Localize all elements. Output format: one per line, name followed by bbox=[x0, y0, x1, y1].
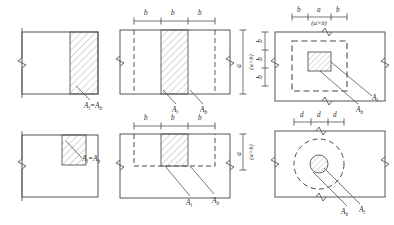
label-al-ab-top-left: Al=Ab bbox=[83, 101, 102, 111]
dimension-right-bottom-middle: a (a>b) bbox=[235, 134, 255, 170]
dim-b-left: b bbox=[297, 6, 301, 14]
dim-b-3: b bbox=[198, 9, 202, 17]
dim-a-value: a bbox=[235, 64, 243, 68]
dim-condition-top-right: (a>b) bbox=[311, 19, 326, 27]
dimension-row-top-right: b a b (a>b) bbox=[292, 6, 347, 27]
dim-b-v2: b bbox=[256, 57, 264, 61]
dim-b-1: b bbox=[144, 9, 148, 17]
dim-b-v1: b bbox=[256, 39, 264, 43]
dimension-row-bottom-right: d d d bbox=[294, 111, 344, 126]
label-al-bottom-middle: Al bbox=[185, 198, 193, 208]
dim-d-1: d bbox=[300, 111, 304, 119]
dimension-row-top-middle: b b b bbox=[134, 9, 215, 25]
dim-b-1: b bbox=[144, 114, 148, 122]
hatched-circle bbox=[310, 155, 328, 173]
panel-top-middle: b b b a (a>b) Al Ab bbox=[116, 9, 255, 115]
diagram-svg: Al=Ab b b b bbox=[0, 0, 394, 225]
dimension-right-top-middle: a (a>b) bbox=[235, 30, 255, 94]
panel-bottom-middle: b b b a (a>b) Al Ab bbox=[116, 114, 255, 208]
panel-bottom-left: Al=Ab bbox=[18, 131, 100, 201]
dim-a-condition: (a>b) bbox=[247, 54, 255, 69]
panel-top-right: b a b (a>b) b b b Al Ab bbox=[256, 6, 389, 115]
dimension-left-top-right: b b b bbox=[256, 32, 269, 86]
dim-a-value: a bbox=[235, 152, 243, 156]
figure-canvas: Al=Ab b b b bbox=[0, 0, 394, 225]
label-al-bottom-right: Al bbox=[358, 205, 366, 215]
dim-b-2: b bbox=[171, 114, 175, 122]
panel-top-left: Al=Ab bbox=[18, 28, 102, 111]
dim-d-2: d bbox=[317, 111, 321, 119]
dimension-row-bottom-middle: b b b bbox=[134, 114, 215, 130]
dim-b-2: b bbox=[171, 9, 175, 17]
panel-bottom-right: d d d Ab Al bbox=[271, 111, 389, 217]
label-ab-bottom-right: Ab bbox=[340, 207, 349, 217]
dim-a-mid: a bbox=[317, 6, 321, 14]
dim-d-3: d bbox=[333, 111, 337, 119]
dim-b-right: b bbox=[336, 6, 340, 14]
label-ab-top-right: Ab bbox=[355, 105, 364, 115]
dim-b-3: b bbox=[198, 114, 202, 122]
dim-a-condition: (a>b) bbox=[247, 144, 255, 159]
dim-b-v3: b bbox=[256, 75, 264, 79]
